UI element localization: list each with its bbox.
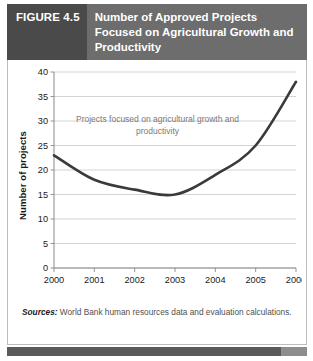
source-label: Sources: xyxy=(22,307,58,317)
line-chart: Number of projects 051015202530354020002… xyxy=(8,60,308,298)
source-note: Sources: World Bank human resources data… xyxy=(22,306,294,318)
y-tick-label: 30 xyxy=(38,116,48,126)
y-axis-title: Number of projects xyxy=(12,60,32,290)
figure-title: Number of Approved Projects Focused on A… xyxy=(87,4,307,60)
x-tick-label: 2004 xyxy=(205,275,225,285)
data-line-0 xyxy=(54,82,296,195)
bottom-bar xyxy=(7,347,307,356)
x-tick-label: 2002 xyxy=(124,275,144,285)
y-tick-label: 25 xyxy=(38,141,48,151)
y-tick-label: 5 xyxy=(43,239,48,249)
y-tick-label: 15 xyxy=(38,190,48,200)
y-tick-label: 10 xyxy=(38,214,48,224)
x-tick-label: 2003 xyxy=(165,275,185,285)
chart-annotation: Projects focused on agricultural growth … xyxy=(70,114,245,137)
x-tick-label: 2001 xyxy=(84,275,104,285)
y-tick-label: 35 xyxy=(38,92,48,102)
figure-body-panel: Number of projects 051015202530354020002… xyxy=(7,60,307,345)
source-text: World Bank human resources data and eval… xyxy=(58,307,292,317)
chart-svg: 0510152025303540200020012002200320042005… xyxy=(32,68,302,298)
bottom-bar-main xyxy=(7,347,281,356)
figure-number-label: FIGURE 4.5 xyxy=(7,4,87,60)
x-tick-label: 2005 xyxy=(245,275,265,285)
y-tick-label: 20 xyxy=(38,165,48,175)
figure-header: FIGURE 4.5 Number of Approved Projects F… xyxy=(7,4,307,60)
x-tick-label: 2000 xyxy=(44,275,64,285)
y-tick-label: 40 xyxy=(38,68,48,77)
figure-container: FIGURE 4.5 Number of Approved Projects F… xyxy=(0,0,313,361)
x-tick-label: 2006 xyxy=(286,275,302,285)
bottom-bar-end xyxy=(281,347,307,356)
y-axis-title-text: Number of projects xyxy=(17,131,28,220)
plot-area: 0510152025303540200020012002200320042005… xyxy=(32,68,302,298)
y-tick-label: 0 xyxy=(43,263,48,273)
